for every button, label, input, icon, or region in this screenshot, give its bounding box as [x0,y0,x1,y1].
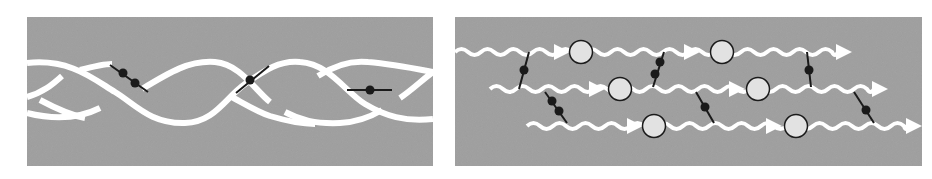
crosslink-dot [862,106,871,115]
right-panel [455,17,922,166]
crosslink-dot [656,58,665,67]
crosslink-dot [701,103,710,112]
particle-circle [785,115,808,138]
crosslink-dot [366,86,375,95]
particle-circle [609,78,632,101]
particle-circle [643,115,666,138]
crosslink-dot [131,79,140,88]
particle-circle [747,78,770,101]
crosslink-dot [548,97,557,106]
crosslink-dot [651,70,660,79]
crosslink-dot [246,76,255,85]
diagram-canvas [0,0,932,179]
left-panel [27,17,433,166]
particle-circle [570,41,593,64]
figure [0,0,932,179]
crosslink-dot [805,66,814,75]
crosslink-dot [119,69,128,78]
particle-circle [711,41,734,64]
crosslink-dot [520,66,529,75]
crosslink-dot [555,107,564,116]
